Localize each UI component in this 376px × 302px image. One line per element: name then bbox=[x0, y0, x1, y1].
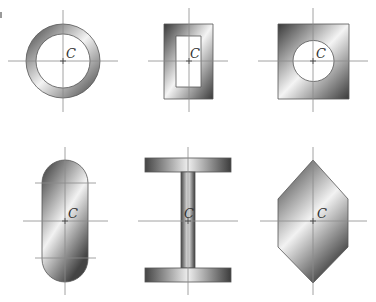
centroid-label: C bbox=[68, 206, 78, 221]
centroid-label: C bbox=[317, 206, 327, 221]
cross-sections-diagram: C C C C C C bbox=[0, 0, 376, 302]
centroid-label: C bbox=[66, 46, 76, 61]
centroid-label: C bbox=[190, 46, 200, 61]
centroid-label: C bbox=[316, 46, 326, 61]
hollow-rectangle-section: C bbox=[148, 8, 228, 112]
centroid-label: C bbox=[184, 206, 194, 221]
